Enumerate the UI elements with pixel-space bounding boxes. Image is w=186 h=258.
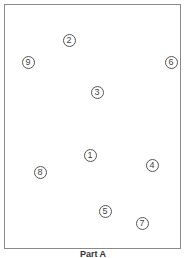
marker-5: 5 (99, 205, 112, 218)
marker-label: 4 (149, 161, 154, 170)
marker-label: 9 (25, 58, 30, 67)
marker-3: 3 (91, 86, 104, 99)
marker-label: 3 (94, 88, 99, 97)
diagram-frame (4, 4, 181, 249)
marker-9: 9 (22, 56, 35, 69)
marker-label: 2 (66, 36, 71, 45)
marker-label: 6 (168, 58, 173, 67)
diagram-caption: Part A (0, 249, 186, 258)
marker-8: 8 (34, 166, 47, 179)
marker-4: 4 (146, 159, 159, 172)
marker-7: 7 (136, 217, 149, 230)
marker-2: 2 (63, 34, 76, 47)
marker-6: 6 (165, 56, 178, 69)
marker-label: 5 (102, 207, 107, 216)
marker-label: 1 (87, 151, 92, 160)
marker-label: 8 (37, 168, 42, 177)
marker-1: 1 (84, 149, 97, 162)
marker-label: 7 (139, 219, 144, 228)
